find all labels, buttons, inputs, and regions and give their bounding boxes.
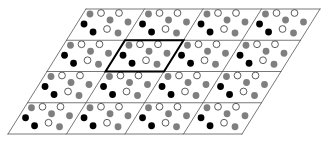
white-atom-icon <box>162 119 169 126</box>
white-atom-icon <box>233 103 240 110</box>
white-atom-icon <box>65 88 72 95</box>
gray-atom-icon <box>185 79 192 86</box>
white-atom-icon <box>98 10 105 17</box>
gray-atom-icon <box>173 30 180 37</box>
gray-atom-icon <box>232 30 239 37</box>
black-atom-icon <box>81 114 88 121</box>
white-atom-icon <box>162 26 169 33</box>
gray-atom-icon <box>300 19 307 26</box>
white-atom-icon <box>273 10 280 17</box>
gray-atom-icon <box>115 123 122 130</box>
white-atom-icon <box>59 72 66 79</box>
white-atom-icon <box>96 41 103 48</box>
gray-atom-icon <box>67 42 74 49</box>
gray-atom-icon <box>224 17 231 24</box>
gray-atom-icon <box>86 81 93 88</box>
black-atom-icon <box>120 52 127 59</box>
gray-atom-icon <box>125 112 132 119</box>
black-atom-icon <box>70 60 77 67</box>
black-atom-icon <box>226 91 233 98</box>
black-atom-icon <box>22 114 29 121</box>
black-atom-icon <box>256 21 263 28</box>
white-atom-icon <box>156 10 163 17</box>
white-atom-icon <box>272 41 279 48</box>
gray-atom-icon <box>242 19 249 26</box>
white-atom-icon <box>279 26 286 33</box>
white-atom-icon <box>117 72 124 79</box>
gray-atom-icon <box>115 30 122 37</box>
white-atom-icon <box>78 41 85 48</box>
gray-atom-icon <box>224 110 231 117</box>
white-atom-icon <box>260 57 267 64</box>
gray-atom-icon <box>183 112 190 119</box>
white-atom-icon <box>234 72 241 79</box>
gray-atom-icon <box>262 11 269 18</box>
black-atom-icon <box>187 60 194 67</box>
gray-atom-icon <box>87 104 94 111</box>
black-atom-icon <box>31 122 38 129</box>
gray-atom-icon <box>134 92 141 99</box>
white-atom-icon <box>221 119 228 126</box>
white-atom-icon <box>57 103 64 110</box>
gray-atom-icon <box>165 110 172 117</box>
gray-atom-icon <box>145 104 152 111</box>
white-atom-icon <box>195 41 202 48</box>
gray-atom-icon <box>126 42 133 49</box>
white-atom-icon <box>143 57 150 64</box>
gray-atom-icon <box>106 73 113 80</box>
black-atom-icon <box>159 83 166 90</box>
gray-atom-icon <box>212 61 219 68</box>
gray-atom-icon <box>145 11 152 18</box>
black-atom-icon <box>207 122 214 129</box>
white-atom-icon <box>45 119 52 126</box>
gray-atom-icon <box>66 112 73 119</box>
white-atom-icon <box>215 103 222 110</box>
black-atom-icon <box>51 91 58 98</box>
white-atom-icon <box>104 119 111 126</box>
gray-atom-icon <box>87 11 94 18</box>
gray-atom-icon <box>164 50 171 57</box>
gray-atom-icon <box>204 104 211 111</box>
black-atom-icon <box>246 60 253 67</box>
black-atom-icon <box>168 91 175 98</box>
lattice-diagram <box>0 0 325 144</box>
gray-atom-icon <box>290 30 297 37</box>
gray-atom-icon <box>48 110 55 117</box>
white-atom-icon <box>240 88 247 95</box>
gray-atom-icon <box>56 123 63 130</box>
gray-atom-icon <box>173 123 180 130</box>
gray-atom-icon <box>223 73 230 80</box>
gray-atom-icon <box>28 104 35 111</box>
highlighted-unit-cell <box>106 40 184 71</box>
white-atom-icon <box>77 72 84 79</box>
white-atom-icon <box>84 57 91 64</box>
gray-atom-icon <box>204 11 211 18</box>
black-atom-icon <box>109 91 116 98</box>
white-atom-icon <box>254 41 261 48</box>
gray-atom-icon <box>105 50 112 57</box>
white-atom-icon <box>174 10 181 17</box>
gray-atom-icon <box>183 19 190 26</box>
black-atom-icon <box>139 114 146 121</box>
white-atom-icon <box>221 26 228 33</box>
black-atom-icon <box>100 83 107 90</box>
black-atom-icon <box>178 52 185 59</box>
white-atom-icon <box>233 10 240 17</box>
gray-atom-icon <box>242 112 249 119</box>
white-atom-icon <box>39 103 46 110</box>
gray-atom-icon <box>193 92 200 99</box>
gray-atom-icon <box>263 48 270 55</box>
white-atom-icon <box>137 41 144 48</box>
white-atom-icon <box>155 41 162 48</box>
white-atom-icon <box>213 41 220 48</box>
white-atom-icon <box>98 103 105 110</box>
gray-atom-icon <box>281 50 288 57</box>
gray-atom-icon <box>222 50 229 57</box>
gray-atom-icon <box>251 92 258 99</box>
gray-atom-icon <box>261 81 268 88</box>
gray-atom-icon <box>76 92 83 99</box>
black-atom-icon <box>90 122 97 129</box>
gray-atom-icon <box>87 48 94 55</box>
gray-atom-icon <box>165 73 172 80</box>
gray-atom-icon <box>203 81 210 88</box>
